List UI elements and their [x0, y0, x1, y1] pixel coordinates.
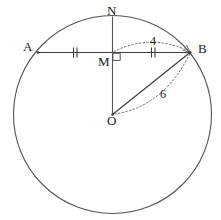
measure-arc-OB [115, 55, 190, 115]
point-label-B: B [198, 42, 207, 55]
point-label-A: A [23, 40, 32, 53]
segment-OB [113, 53, 191, 115]
right-angle-icon [113, 53, 120, 60]
diagram-canvas [0, 0, 221, 220]
circle-geometry-diagram: N A B M O 4 6 [0, 0, 221, 220]
point-B-dot [188, 51, 191, 54]
point-label-M: M [98, 55, 110, 68]
point-A-dot [37, 51, 40, 54]
length-label-MB: 4 [150, 35, 156, 47]
point-label-O: O [107, 114, 116, 127]
point-label-N: N [107, 4, 116, 17]
length-label-OB: 6 [160, 88, 166, 100]
